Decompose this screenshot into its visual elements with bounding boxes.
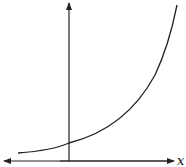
exponential-graph: x xyxy=(0,0,186,167)
x-axis-label: x xyxy=(177,153,185,167)
exponential-curve xyxy=(18,5,177,153)
